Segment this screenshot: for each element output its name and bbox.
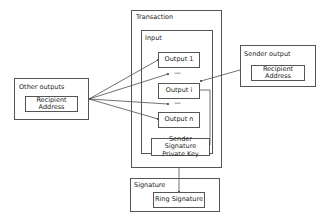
output-1-node: Output 1 [158,52,200,68]
sender-output-title: Sender output [244,50,291,58]
transaction-title: Transaction [136,13,173,21]
sender-signature-private-key-node: Sender Signature Private Key [151,138,210,156]
signature-title: Signature [134,181,165,189]
ellipsis-1: — [174,69,181,77]
input-title: Input [145,34,162,42]
other-outputs-title: Other outputs [19,83,64,91]
ellipsis-2: — [174,99,181,107]
sender-output-recipient-address: Recipient Address [251,65,305,81]
output-i-node: Output i [158,83,200,99]
ring-signature-node: Ring Signature [153,192,205,208]
output-n-node: Output n [158,112,200,128]
other-outputs-recipient-address: Recipient Address [25,96,78,112]
